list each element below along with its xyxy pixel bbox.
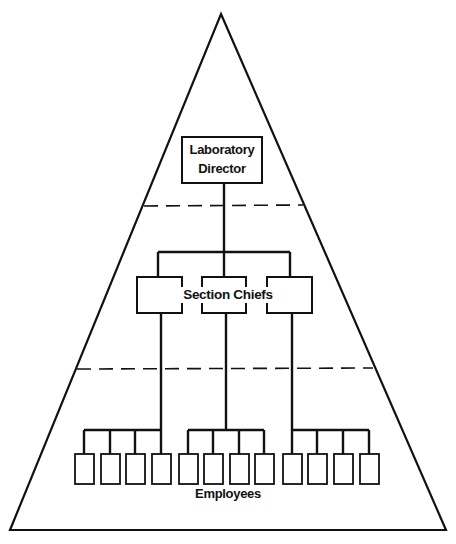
org-pyramid-diagram — [0, 0, 456, 544]
section-chief-box-1 — [137, 277, 182, 313]
director-label-line1: Laboratory — [182, 140, 262, 159]
director-label-line2: Director — [182, 159, 262, 178]
section-chiefs-label: Section Chiefs — [178, 287, 278, 303]
employees-label: Employees — [178, 486, 278, 502]
employee-boxes — [75, 454, 379, 484]
director-label: Laboratory Director — [182, 140, 262, 178]
pyramid-outline — [10, 14, 446, 530]
